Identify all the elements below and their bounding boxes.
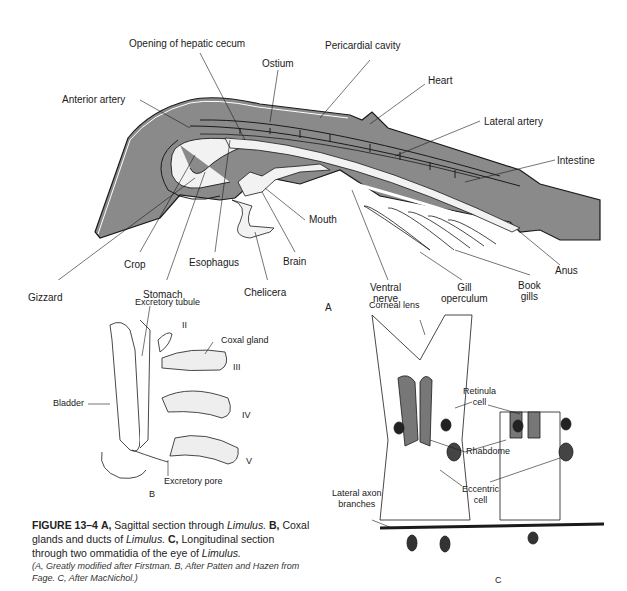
label-anus: Anus xyxy=(555,265,578,276)
label-numeral-iii: III xyxy=(233,362,241,373)
panel-a-sagittal-section xyxy=(0,0,627,280)
label-ventral-nerve-line1: Ventral xyxy=(370,282,401,293)
label-intestine: Intestine xyxy=(557,155,595,166)
panel-b-letter: B xyxy=(149,489,155,500)
label-lateral-axon-branches: Lateral axon branches xyxy=(332,488,382,510)
label-excretory-tubule: Excretory tubule xyxy=(135,297,200,308)
figure-caption: FIGURE 13–4 A, Sagittal section through … xyxy=(32,518,312,584)
caption-a-genus: Limulus. xyxy=(227,519,266,531)
caption-b-tag: B, xyxy=(269,519,280,531)
label-numeral-iv: IV xyxy=(242,410,251,421)
label-anterior-artery: Anterior artery xyxy=(62,94,125,105)
label-gill-operculum-line2: operculum xyxy=(441,293,488,304)
label-gizzard: Gizzard xyxy=(28,292,62,303)
label-eccentric-cell: Eccentric cell xyxy=(462,484,499,506)
label-esophagus: Esophagus xyxy=(189,257,239,268)
label-book-gills-line2: gills xyxy=(518,291,541,302)
caption-a-text: Sagittal section through xyxy=(114,519,224,531)
label-book-gills: Book gills xyxy=(518,280,541,302)
label-book-gills-line1: Book xyxy=(518,280,541,291)
label-bladder: Bladder xyxy=(53,398,84,409)
label-corneal-lens: Corneal lens xyxy=(369,300,420,311)
label-ostium: Ostium xyxy=(262,58,294,69)
label-crop: Crop xyxy=(124,259,146,270)
label-eccentric-cell-line1: Eccentric xyxy=(462,484,499,495)
label-eccentric-cell-line2: cell xyxy=(462,495,499,506)
label-chelicera: Chelicera xyxy=(244,287,286,298)
label-rhabdome: Rhabdome xyxy=(466,446,510,457)
panel-a-letter: A xyxy=(325,302,332,313)
caption-b-genus: Limulus. xyxy=(126,533,165,545)
label-opening-hepatic-cecum: Opening of hepatic cecum xyxy=(129,38,245,49)
caption-c-tag: C, xyxy=(168,533,179,545)
label-gill-operculum-line1: Gill xyxy=(441,282,488,293)
label-coxal-gland: Coxal gland xyxy=(221,335,269,346)
label-lateral-axon-line1: Lateral axon xyxy=(332,488,382,499)
caption-c-genus: Limulus. xyxy=(202,547,241,559)
label-retinula-cell-line2: cell xyxy=(463,397,496,408)
label-pericardial-cavity: Pericardial cavity xyxy=(325,40,401,51)
label-excretory-pore: Excretory pore xyxy=(164,476,223,487)
label-brain: Brain xyxy=(283,256,306,267)
label-retinula-cell: Retinula cell xyxy=(463,386,496,408)
label-lateral-axon-line2: branches xyxy=(332,499,382,510)
label-mouth: Mouth xyxy=(309,214,337,225)
label-heart: Heart xyxy=(428,75,452,86)
caption-credit: (A, Greatly modified after Firstman. B, … xyxy=(32,560,312,584)
panel-c-letter: C xyxy=(495,575,502,586)
label-numeral-ii: II xyxy=(182,320,187,331)
label-gill-operculum: Gill operculum xyxy=(441,282,488,304)
label-retinula-cell-line1: Retinula xyxy=(463,386,496,397)
label-lateral-artery: Lateral artery xyxy=(484,116,543,127)
label-numeral-v: V xyxy=(246,456,252,467)
caption-a-tag: A, xyxy=(101,519,112,531)
caption-figure-number: FIGURE 13–4 xyxy=(32,519,98,531)
